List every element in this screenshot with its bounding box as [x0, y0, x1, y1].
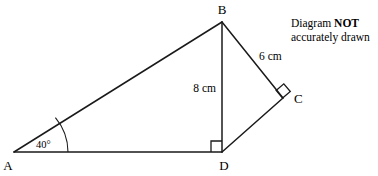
- right-angle-mark-d: [211, 141, 222, 152]
- vertex-label-c: C: [294, 91, 303, 106]
- not-accurately-drawn-note: Diagram NOT accurately drawn: [291, 17, 370, 44]
- note-line-one: Diagram NOT: [291, 17, 370, 31]
- segment-DC: [222, 98, 283, 152]
- note-line-two: accurately drawn: [291, 31, 370, 45]
- measurement-label-bd: 8 cm: [193, 82, 216, 94]
- segment-AB: [14, 22, 222, 152]
- geometry-diagram: A B C D 8 cm 6 cm 40° Diagram NOT accura…: [0, 0, 378, 176]
- note-emphasis: NOT: [334, 17, 359, 29]
- angle-label-a: 40°: [36, 139, 51, 150]
- note-prefix: Diagram: [291, 17, 334, 29]
- vertex-label-b: B: [218, 2, 227, 17]
- vertex-label-d: D: [219, 158, 228, 173]
- measurement-label-bc: 6 cm: [259, 50, 282, 62]
- vertex-label-a: A: [3, 158, 13, 173]
